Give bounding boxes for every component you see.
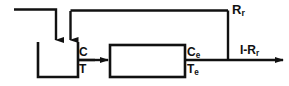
tank-outlet-temperature-label: T [79, 63, 86, 75]
product-stream-label: I-Rr [240, 44, 259, 56]
tank-outlet-concentration-label: C [79, 46, 88, 58]
mixing-tank-vessel [38, 42, 78, 77]
feed-stream-line [14, 10, 56, 41]
reactor-exit-temperature-label: Te [187, 63, 199, 75]
process-flow-diagram: Rr C T Ce Te I-Rr [0, 0, 289, 86]
reactor-box [110, 45, 185, 77]
reactor-exit-concentration-label: Ce [187, 46, 200, 58]
recycle-stream-label: Rr [232, 3, 245, 16]
